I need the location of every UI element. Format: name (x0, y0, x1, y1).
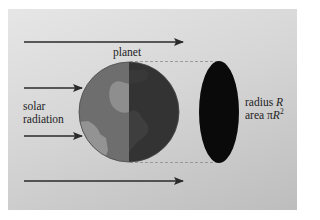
solar-label-line2: radiation (23, 113, 64, 125)
shadow-disk (199, 61, 239, 163)
radius-prefix: radius (245, 96, 276, 108)
area-symbol: R (273, 109, 280, 121)
planet-globe (79, 62, 179, 162)
area-prefix: area (245, 109, 267, 121)
area-exponent: 2 (280, 107, 284, 116)
area-label: area πR2 (245, 109, 284, 121)
planet-label: planet (113, 46, 141, 58)
radius-label: radius R (245, 96, 283, 108)
solar-label-line1: solar (23, 100, 45, 112)
